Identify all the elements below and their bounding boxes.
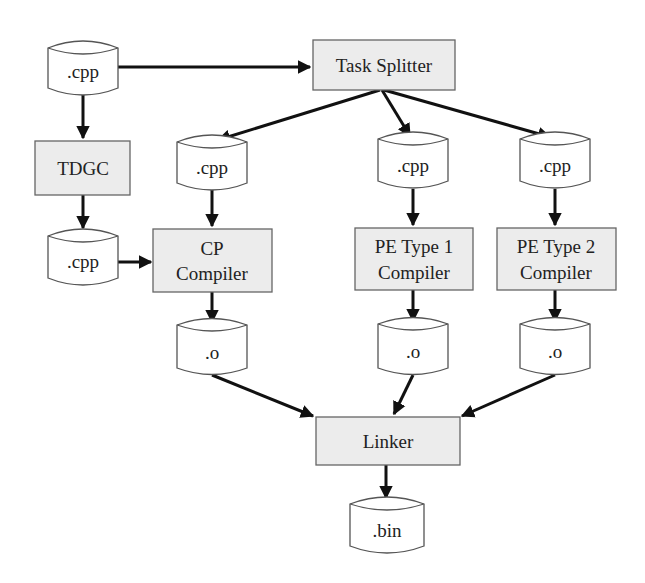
task-splitter-label: Task Splitter (336, 55, 433, 76)
node-pe2-compiler: PE Type 2 Compiler (497, 228, 616, 290)
edge-splitter-to-cpp-cp (218, 90, 380, 140)
obj-cp-label: .o (205, 342, 219, 363)
pe1-compiler-line2: Compiler (378, 262, 450, 283)
cpp-tdgc-out-label: .cpp (67, 251, 99, 272)
node-task-splitter: Task Splitter (313, 40, 455, 90)
cpp-pe2-label: .cpp (539, 155, 571, 176)
node-cpp-cp: .cpp (177, 135, 247, 190)
edge-o-cp-to-linker (212, 375, 313, 416)
bin-label: .bin (372, 520, 402, 541)
node-linker: Linker (316, 417, 460, 465)
node-cpp-pe2: .cpp (520, 132, 590, 188)
node-pe1-compiler: PE Type 1 Compiler (355, 228, 473, 290)
cpp-cp-label: .cpp (196, 157, 228, 178)
edge-splitter-to-cpp-pe2 (384, 90, 550, 137)
node-cpp-pe1: .cpp (378, 132, 448, 188)
pe2-compiler-line2: Compiler (520, 262, 592, 283)
node-obj-pe2: .o (520, 318, 590, 375)
edge-o-pe1-to-linker (394, 375, 413, 414)
linker-label: Linker (363, 431, 414, 452)
cp-compiler-line1: CP (200, 238, 223, 259)
node-obj-pe1: .o (378, 318, 448, 375)
node-obj-cp: .o (177, 319, 247, 375)
node-cpp-source: .cpp (48, 41, 118, 95)
node-cp-compiler: CP Compiler (153, 229, 272, 292)
compilation-flow-diagram: .cpp Task Splitter TDGC .cpp .cpp .cpp .… (0, 0, 645, 583)
tdgc-label: TDGC (57, 158, 109, 179)
node-tdgc: TDGC (35, 141, 130, 195)
obj-pe1-label: .o (406, 341, 420, 362)
node-cpp-tdgc-out: .cpp (48, 229, 118, 285)
cp-compiler-line2: Compiler (176, 263, 248, 284)
cpp-source-label: .cpp (67, 61, 99, 82)
node-bin: .bin (350, 497, 424, 553)
edge-o-pe2-to-linker (462, 375, 555, 416)
pe1-compiler-line1: PE Type 1 (375, 236, 454, 257)
obj-pe2-label: .o (548, 341, 562, 362)
pe2-compiler-line1: PE Type 2 (517, 236, 596, 257)
cpp-pe1-label: .cpp (397, 155, 429, 176)
